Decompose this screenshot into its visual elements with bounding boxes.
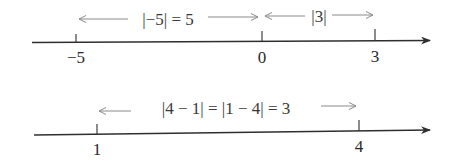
annotation-text: |3| — [311, 7, 326, 26]
tick-label: −5 — [67, 48, 85, 67]
tick-4: 4 — [355, 120, 364, 156]
distance-annotation-3: |3| — [265, 7, 373, 26]
tick-3: 3 — [371, 29, 380, 66]
axis-line — [34, 130, 430, 135]
tick-1: 1 — [93, 124, 102, 159]
tick-label: 4 — [355, 137, 364, 156]
number-line-2: 1 4 |4 − 1| = |1 − 4| = 3 — [34, 99, 430, 159]
distance-annotation-neg5: |−5| = 5 — [79, 10, 258, 29]
number-line-1: −5 0 3 |−5| = 5 |3| — [32, 7, 430, 67]
number-line-figure: −5 0 3 |−5| = 5 |3| 1 — [0, 0, 462, 162]
tick-0: 0 — [258, 31, 267, 67]
tick-label: 1 — [93, 140, 102, 159]
annotation-text: |−5| = 5 — [142, 10, 193, 29]
tick-label: 0 — [258, 48, 267, 67]
axis-line — [32, 41, 430, 43]
distance-annotation-4-1: |4 − 1| = |1 − 4| = 3 — [99, 99, 356, 118]
tick-label: 3 — [371, 47, 380, 66]
tick-neg5: −5 — [67, 34, 85, 67]
annotation-text: |4 − 1| = |1 − 4| = 3 — [162, 99, 290, 118]
